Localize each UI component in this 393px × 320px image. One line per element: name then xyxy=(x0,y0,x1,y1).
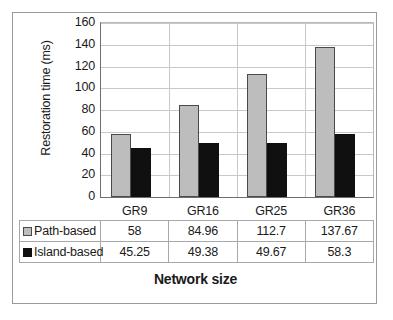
y-axis-tick-labels: 020406080100120140160 xyxy=(57,22,95,198)
bar-group xyxy=(169,23,237,197)
y-axis-tick-label: 80 xyxy=(57,103,95,115)
table-cell: 45.25 xyxy=(101,242,169,263)
legend-entry-island-based: Island-based xyxy=(20,242,101,263)
figure-frame: Restoration time (ms) 020406080100120140… xyxy=(12,12,377,304)
table-row: Island-based45.2549.3849.6758.3 xyxy=(20,242,374,263)
bar-gr9-island-based xyxy=(131,148,151,197)
bar-gr25-path-based xyxy=(247,74,267,197)
table-column-header: GR9 xyxy=(101,201,169,221)
y-axis-tick-label: 40 xyxy=(57,147,95,159)
table-row-categories: GR9GR16GR25GR36 xyxy=(20,201,374,221)
y-axis-tick-label: 100 xyxy=(57,81,95,93)
y-axis-tick-label: 160 xyxy=(57,16,95,28)
bar-chart: Restoration time (ms) 020406080100120140… xyxy=(13,16,378,216)
bar-group xyxy=(101,23,169,197)
table-cell: 84.96 xyxy=(169,221,237,242)
y-axis-tick-label: 20 xyxy=(57,168,95,180)
table-column-header: GR25 xyxy=(237,201,305,221)
table-cell: 49.38 xyxy=(169,242,237,263)
legend-swatch-icon xyxy=(23,227,32,236)
bar-gr16-path-based xyxy=(179,105,199,197)
table-column-header: GR36 xyxy=(305,201,373,221)
table-cell: 137.67 xyxy=(305,221,373,242)
bar-group xyxy=(305,23,373,197)
y-axis-tick-label: 140 xyxy=(57,38,95,50)
y-axis-tick-label: 60 xyxy=(57,125,95,137)
legend-label: Path-based xyxy=(34,224,96,238)
table-column-header: GR16 xyxy=(169,201,237,221)
x-axis-title: Network size xyxy=(13,271,378,287)
table-cell: 112.7 xyxy=(237,221,305,242)
bar-gr36-island-based xyxy=(335,134,355,197)
table-cell: 49.67 xyxy=(237,242,305,263)
bar-gr36-path-based xyxy=(315,47,335,197)
table-cell: 58 xyxy=(101,221,169,242)
table-cell: 58.3 xyxy=(305,242,373,263)
bar-gr16-island-based xyxy=(199,143,219,197)
bar-group xyxy=(237,23,305,197)
table-row: Path-based5884.96112.7137.67 xyxy=(20,221,374,242)
legend-swatch-icon xyxy=(23,248,32,257)
plot-area xyxy=(100,22,374,198)
chart-data-table: GR9GR16GR25GR36Path-based5884.96112.7137… xyxy=(19,201,374,263)
bar-gr25-island-based xyxy=(267,143,287,197)
y-axis-tick-label: 120 xyxy=(57,60,95,72)
legend-label: Island-based xyxy=(34,245,103,259)
y-axis-title: Restoration time (ms) xyxy=(39,18,53,178)
bar-gr9-path-based xyxy=(111,134,131,197)
legend-entry-path-based: Path-based xyxy=(20,221,101,242)
table-corner-cell xyxy=(20,201,101,221)
data-table-body: GR9GR16GR25GR36Path-based5884.96112.7137… xyxy=(20,201,374,263)
